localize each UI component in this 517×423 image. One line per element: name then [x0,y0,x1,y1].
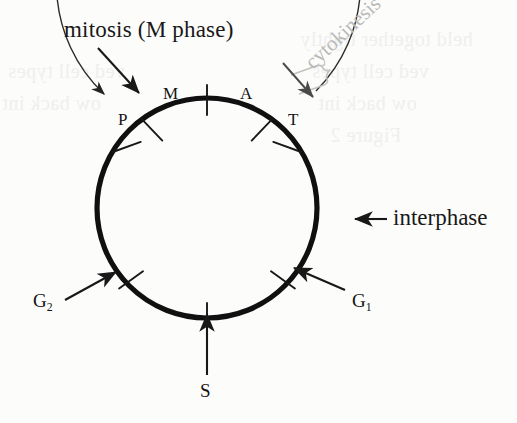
stage-label-telophase: T [288,111,298,128]
cell-cycle-inner-circle [97,98,317,318]
g2-label: G2 [33,291,53,314]
g2-letter: G [33,290,47,311]
interphase-label: interphase [393,206,488,229]
g2-subscript: 2 [47,301,53,314]
phase-tick [142,119,163,140]
mitosis-label: mitosis (M phase) [64,18,234,41]
g1-label: G1 [352,291,372,314]
cell-cycle-figure: held together tightly ved cell types ow … [0,0,517,423]
stage-label-anaphase: A [240,85,252,102]
g1-letter: G [352,290,366,311]
stage-label-metaphase: M [163,85,178,102]
mitosis-leader-arrow [98,48,139,93]
g1-leader-arrow [294,268,345,290]
g2-leader-arrow [65,272,116,300]
stage-label-prophase: P [118,111,127,128]
phase-tick [252,119,273,140]
g1-subscript: 1 [366,301,372,314]
s-phase-label: S [200,381,211,400]
